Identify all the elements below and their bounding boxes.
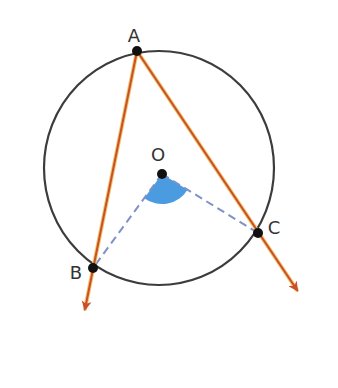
label-c: C [268,219,281,237]
inscribed-angle-diagram: A B C O [0,0,338,388]
point-b [88,263,98,273]
point-o-center [157,169,167,179]
label-o: O [151,146,165,164]
label-a: A [128,27,140,45]
point-c [253,228,263,238]
point-a [132,46,142,56]
radius-oc-dashed [162,174,258,233]
diagram-canvas [0,0,338,388]
label-b: B [70,264,82,282]
